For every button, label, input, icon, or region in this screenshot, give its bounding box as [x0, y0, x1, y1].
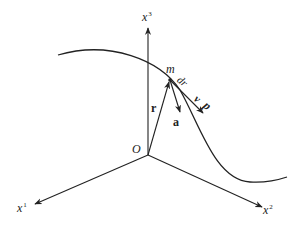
x2-axis-label: x2 [263, 204, 273, 216]
x1-axis-label: x1 [17, 202, 27, 214]
vector-r-label: r [151, 102, 156, 114]
x2-superscript: 2 [269, 203, 273, 211]
point-m-label: m [166, 63, 175, 75]
position-vector-r [148, 82, 169, 155]
origin-label: O [132, 143, 141, 155]
point-m-dot [168, 78, 172, 82]
x1-axis [35, 155, 148, 204]
x1-superscript: 1 [23, 201, 27, 209]
vector-a-label: a [173, 116, 179, 128]
x3-superscript: 3 [148, 10, 152, 18]
x3-axis-label: x3 [142, 11, 152, 23]
